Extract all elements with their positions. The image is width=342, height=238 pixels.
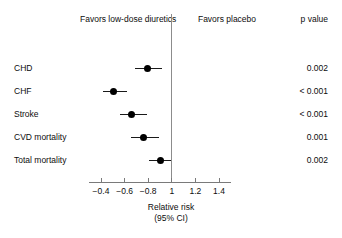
x-axis-tick xyxy=(219,178,220,182)
x-axis-tick xyxy=(124,178,125,182)
p-value-cell: 0.001 xyxy=(248,132,328,143)
point-estimate-marker xyxy=(128,111,135,118)
p-value-cell: 0.002 xyxy=(248,155,328,166)
x-axis-title-line2: (95% CI) xyxy=(116,213,226,224)
point-estimate-marker xyxy=(140,134,147,141)
forest-plot-figure: Favors low-dose diuretics Favors placebo… xyxy=(0,0,342,238)
point-estimate-marker xyxy=(157,157,164,164)
row-label: CHF xyxy=(14,86,104,97)
point-estimate-marker xyxy=(110,88,117,95)
p-value-cell: < 0.001 xyxy=(248,109,328,120)
x-axis-title-line1: Relative risk xyxy=(116,202,226,213)
row-label: CVD mortality xyxy=(14,132,104,143)
row-label: Stroke xyxy=(14,109,104,120)
x-axis-tick xyxy=(101,178,102,182)
x-axis-tick xyxy=(171,178,172,182)
row-label: CHD xyxy=(14,63,104,74)
x-axis-tick xyxy=(195,178,196,182)
row-label: Total mortality xyxy=(14,155,104,166)
x-axis-tick-label: 1.4 xyxy=(199,186,239,196)
p-value-cell: 0.002 xyxy=(248,63,328,74)
x-axis-line xyxy=(89,182,231,183)
x-axis-tick xyxy=(148,178,149,182)
point-estimate-marker xyxy=(144,65,151,72)
p-value-cell: < 0.001 xyxy=(248,86,328,97)
reference-line-at-1 xyxy=(171,14,172,182)
